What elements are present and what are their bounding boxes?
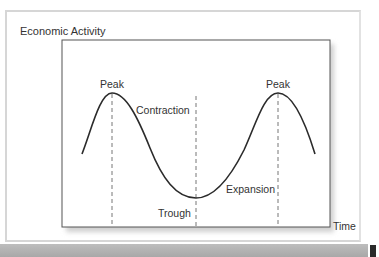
- contraction-label: Contraction: [136, 104, 190, 116]
- expansion-label: Expansion: [226, 183, 275, 195]
- peak-left-label: Peak: [100, 78, 124, 90]
- trough-label: Trough: [158, 207, 191, 219]
- peak-right-label: Peak: [266, 78, 290, 90]
- x-axis-label: Time: [333, 220, 356, 232]
